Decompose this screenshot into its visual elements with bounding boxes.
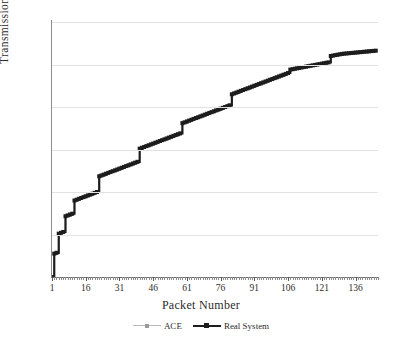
x-tick-111 xyxy=(299,277,300,280)
x-tick-114 xyxy=(306,277,307,280)
x-tick-141 xyxy=(367,277,368,280)
x-tick-62 xyxy=(189,277,190,280)
x-tick-131 xyxy=(344,277,345,280)
x-tick-64 xyxy=(194,277,195,280)
x-tick-71 xyxy=(209,277,210,280)
x-tick-126 xyxy=(333,277,334,280)
x-tick-134 xyxy=(351,277,352,280)
x-tick-16 xyxy=(86,277,87,281)
gridline-y-4 xyxy=(52,107,378,108)
x-tick-27 xyxy=(110,277,111,280)
gridline-y-1 xyxy=(52,235,378,236)
x-tick-98 xyxy=(270,277,271,280)
x-tick-129 xyxy=(340,277,341,280)
x-tick-118 xyxy=(315,277,316,280)
x-tick-69 xyxy=(205,277,206,280)
x-tick-65 xyxy=(196,277,197,280)
legend-entry-real-system: Real System xyxy=(193,321,269,331)
x-tick-143 xyxy=(371,277,372,280)
x-tick-41 xyxy=(142,277,143,280)
x-tick-78 xyxy=(225,277,226,280)
x-tick-28 xyxy=(113,277,114,280)
x-tick-104 xyxy=(284,277,285,280)
x-tick-81 xyxy=(232,277,233,280)
x-tick-102 xyxy=(279,277,280,280)
x-tick-44 xyxy=(149,277,150,280)
x-tick-59 xyxy=(182,277,183,280)
x-tick-52 xyxy=(167,277,168,280)
x-tick-112 xyxy=(302,277,303,280)
chart-figure: Transmission instant (s) 0123456 1163146… xyxy=(0,0,402,343)
x-tick-36 xyxy=(131,277,132,280)
x-tick-48 xyxy=(158,277,159,280)
x-tick-82 xyxy=(234,277,235,280)
x-tick-46 xyxy=(153,277,154,281)
x-tick-5 xyxy=(61,277,62,280)
x-tick-32 xyxy=(122,277,123,280)
x-tick-42 xyxy=(144,277,145,280)
x-tick-146 xyxy=(378,277,379,280)
x-tick-74 xyxy=(216,277,217,280)
x-tick-3 xyxy=(56,277,57,280)
x-tick-6 xyxy=(63,277,64,280)
gridline-y-2 xyxy=(52,192,378,193)
x-tick-119 xyxy=(317,277,318,280)
x-tick-label-121: 121 xyxy=(309,283,335,293)
x-tick-63 xyxy=(191,277,192,280)
x-tick-121 xyxy=(322,277,323,281)
x-tick-68 xyxy=(203,277,204,280)
x-tick-56 xyxy=(176,277,177,280)
legend-entry-ace: ACE xyxy=(133,321,182,331)
x-tick-95 xyxy=(263,277,264,280)
x-tick-67 xyxy=(200,277,201,280)
x-tick-label-91: 91 xyxy=(241,283,267,293)
x-tick-97 xyxy=(268,277,269,280)
x-tick-80 xyxy=(230,277,231,280)
x-tick-84 xyxy=(239,277,240,280)
x-tick-47 xyxy=(155,277,156,280)
x-tick-21 xyxy=(97,277,98,280)
x-tick-49 xyxy=(160,277,161,280)
x-tick-86 xyxy=(243,277,244,280)
x-tick-110 xyxy=(297,277,298,280)
x-tick-145 xyxy=(376,277,377,280)
x-tick-87 xyxy=(245,277,246,280)
x-tick-2 xyxy=(54,277,55,280)
x-tick-19 xyxy=(92,277,93,280)
x-tick-25 xyxy=(106,277,107,280)
x-tick-93 xyxy=(259,277,260,280)
x-tick-138 xyxy=(360,277,361,280)
x-tick-22 xyxy=(99,277,100,280)
x-tick-127 xyxy=(335,277,336,280)
x-tick-91 xyxy=(254,277,255,281)
x-tick-75 xyxy=(218,277,219,280)
x-tick-77 xyxy=(223,277,224,280)
x-tick-15 xyxy=(83,277,84,280)
x-tick-61 xyxy=(187,277,188,281)
y-axis-title: Transmission instant (s) xyxy=(0,0,10,64)
x-tick-133 xyxy=(349,277,350,280)
x-tick-38 xyxy=(135,277,136,280)
x-tick-116 xyxy=(311,277,312,280)
x-tick-142 xyxy=(369,277,370,280)
x-tick-106 xyxy=(288,277,289,281)
gridline-y-6 xyxy=(52,22,378,23)
x-tick-12 xyxy=(77,277,78,280)
x-tick-89 xyxy=(250,277,251,280)
x-tick-83 xyxy=(236,277,237,280)
x-tick-92 xyxy=(257,277,258,280)
x-tick-11 xyxy=(74,277,75,280)
x-tick-70 xyxy=(207,277,208,280)
x-tick-label-106: 106 xyxy=(275,283,301,293)
x-tick-51 xyxy=(164,277,165,280)
x-tick-137 xyxy=(358,277,359,280)
x-tick-26 xyxy=(108,277,109,280)
x-tick-124 xyxy=(329,277,330,280)
x-tick-144 xyxy=(374,277,375,280)
x-tick-79 xyxy=(227,277,228,280)
x-tick-57 xyxy=(178,277,179,280)
x-tick-label-31: 31 xyxy=(106,283,132,293)
x-tick-105 xyxy=(286,277,287,280)
x-tick-60 xyxy=(185,277,186,280)
x-tick-18 xyxy=(90,277,91,280)
